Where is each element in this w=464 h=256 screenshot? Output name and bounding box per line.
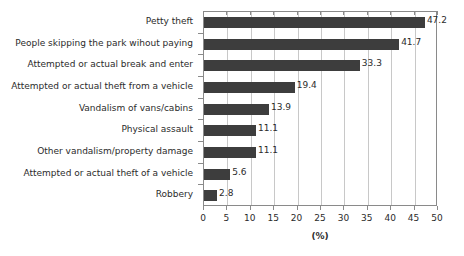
bar-row — [204, 99, 436, 121]
bar — [204, 82, 295, 93]
bar-value-label: 2.8 — [219, 186, 233, 200]
category-label: Vandalism of vans/cabins — [79, 101, 193, 115]
bar-row — [204, 77, 436, 99]
bar-value-label: 47.2 — [427, 13, 447, 27]
x-axis-tick — [203, 206, 204, 210]
x-axis-tick — [226, 206, 227, 210]
x-axis-tick — [343, 206, 344, 210]
x-axis-tick-label: 40 — [378, 212, 402, 224]
x-axis-tick-top — [297, 11, 298, 15]
x-axis-tick-label: 15 — [261, 212, 285, 224]
bar-row — [204, 120, 436, 142]
category-label: Attempted or actual theft from a vehicle — [11, 79, 193, 93]
bar — [204, 190, 217, 201]
x-axis-tick-label: 50 — [425, 212, 449, 224]
x-axis-tick-top — [367, 11, 368, 15]
bar-chart: Petty theftPeople skipping the park wiho… — [0, 0, 464, 256]
x-axis-tick — [273, 206, 274, 210]
bar-row — [204, 185, 436, 207]
x-axis-tick — [250, 206, 251, 210]
bar-value-label: 11.1 — [258, 121, 278, 135]
x-axis-tick-label: 45 — [402, 212, 426, 224]
x-axis-tick-top — [250, 11, 251, 15]
bar — [204, 104, 269, 115]
x-axis-tick-top — [390, 11, 391, 15]
x-axis-tick — [367, 206, 368, 210]
x-axis-tick-top — [414, 11, 415, 15]
x-axis-tick-label: 25 — [308, 212, 332, 224]
category-label: People skipping the park wihout paying — [15, 36, 193, 50]
x-axis-tick-label: 5 — [214, 212, 238, 224]
x-axis-tick-top — [203, 11, 204, 15]
x-axis-tick-top — [273, 11, 274, 15]
category-label: Other vandalism/property damage — [37, 144, 193, 158]
bar-value-label: 41.7 — [401, 35, 421, 49]
bar-value-label: 5.6 — [232, 165, 246, 179]
category-label: Physical assault — [121, 122, 193, 136]
x-axis-tick — [437, 206, 438, 210]
bar — [204, 169, 230, 180]
bar — [204, 125, 256, 136]
bar — [204, 147, 256, 158]
bar-value-label: 19.4 — [297, 78, 317, 92]
bar — [204, 39, 399, 50]
bar-row — [204, 12, 436, 34]
x-axis-tick — [414, 206, 415, 210]
bar-row — [204, 142, 436, 164]
x-axis-tick — [320, 206, 321, 210]
bar — [204, 60, 360, 71]
x-axis-tick-top — [320, 11, 321, 15]
category-label: Robbery — [156, 187, 193, 201]
x-axis-tick — [297, 206, 298, 210]
x-axis-tick-top — [343, 11, 344, 15]
bar-value-label: 33.3 — [362, 56, 382, 70]
x-axis-tick — [390, 206, 391, 210]
x-axis-title: (%) — [203, 231, 437, 241]
x-axis-tick-top — [437, 11, 438, 15]
bar — [204, 17, 425, 28]
category-label: Attempted or actual break and enter — [28, 57, 194, 71]
bar-row — [204, 55, 436, 77]
x-axis-tick-label: 35 — [355, 212, 379, 224]
bar-value-label: 11.1 — [258, 143, 278, 157]
x-axis-tick-label: 0 — [191, 212, 215, 224]
x-axis-tick-label: 10 — [238, 212, 262, 224]
category-label: Petty theft — [146, 14, 193, 28]
bar-value-label: 13.9 — [271, 100, 291, 114]
category-label: Attempted or actual theft of a vehicle — [24, 166, 194, 180]
category-axis-labels: Petty theftPeople skipping the park wiho… — [0, 11, 199, 206]
x-axis-tick-label: 30 — [331, 212, 355, 224]
x-axis-tick-label: 20 — [285, 212, 309, 224]
x-axis-tick-top — [226, 11, 227, 15]
